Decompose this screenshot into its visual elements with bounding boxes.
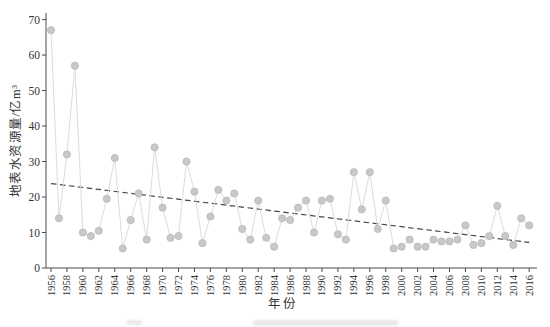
data-point: [207, 213, 214, 220]
x-tick-label: 1958: [61, 275, 72, 296]
y-tick-label: 40: [29, 120, 41, 132]
data-point: [462, 222, 469, 229]
x-tick-label: 2012: [492, 275, 503, 296]
data-point: [446, 238, 453, 245]
x-tick-label: 1964: [109, 274, 120, 296]
data-point: [518, 215, 525, 222]
x-tick-label: 1990: [316, 275, 327, 296]
x-tick-label: 1962: [93, 275, 104, 296]
data-point: [119, 245, 126, 252]
x-tick-label: 1968: [141, 275, 152, 296]
data-point: [135, 190, 142, 197]
y-tick-label: 10: [29, 227, 41, 239]
x-tick-label: 1998: [380, 275, 391, 296]
data-point: [239, 225, 246, 232]
x-tick-label: 1994: [348, 274, 359, 296]
data-point: [183, 158, 190, 165]
data-point: [71, 62, 78, 69]
caption-fragment-left: [126, 320, 142, 325]
x-tick-label: 1992: [332, 275, 343, 296]
data-point: [87, 232, 94, 239]
data-point: [55, 215, 62, 222]
x-tick-label: 1980: [237, 275, 248, 296]
data-point: [326, 195, 333, 202]
data-point: [390, 245, 397, 252]
data-point: [127, 216, 134, 223]
data-point: [358, 206, 365, 213]
x-tick-label: 2014: [508, 274, 519, 296]
x-axis-title: 年份: [268, 293, 298, 312]
chart-figure: 0102030405060701956195819601962196419661…: [0, 0, 550, 327]
data-point: [247, 236, 254, 243]
data-point: [318, 197, 325, 204]
data-point: [374, 225, 381, 232]
data-point: [95, 227, 102, 234]
data-point: [294, 204, 301, 211]
x-tick-label: 1988: [301, 275, 312, 296]
data-point: [103, 195, 110, 202]
data-point: [215, 186, 222, 193]
x-tick-label: 2002: [412, 275, 423, 296]
x-tick-label: 2008: [460, 275, 471, 296]
data-point: [486, 232, 493, 239]
x-tick-label: 2006: [444, 275, 455, 296]
data-point: [310, 229, 317, 236]
y-tick-label: 60: [29, 49, 41, 61]
data-point: [279, 215, 286, 222]
data-point: [438, 238, 445, 245]
x-tick-label: 2004: [428, 274, 439, 296]
x-tick-label: 1976: [205, 275, 216, 296]
data-point: [342, 236, 349, 243]
data-point: [526, 222, 533, 229]
data-point: [334, 231, 341, 238]
data-point: [263, 234, 270, 241]
data-point: [151, 144, 158, 151]
data-point: [470, 241, 477, 248]
x-tick-label: 1956: [46, 275, 57, 296]
x-tick-label: 2010: [476, 275, 487, 296]
data-point: [223, 197, 230, 204]
caption-fragment-right: [253, 320, 398, 326]
data-point: [494, 202, 501, 209]
data-point: [143, 236, 150, 243]
data-point: [231, 190, 238, 197]
data-point: [167, 234, 174, 241]
data-point: [255, 197, 262, 204]
y-tick-label: 30: [29, 156, 41, 168]
data-point: [302, 197, 309, 204]
y-tick-label: 70: [29, 14, 41, 26]
y-axis-title: 地表水资源量/亿m³: [5, 85, 24, 198]
data-point: [159, 204, 166, 211]
x-tick-label: 1960: [77, 275, 88, 296]
data-point: [406, 236, 413, 243]
chart-canvas: 0102030405060701956195819601962196419661…: [0, 0, 550, 327]
data-point: [191, 188, 198, 195]
data-point: [63, 151, 70, 158]
data-point: [510, 241, 517, 248]
series-line: [51, 30, 529, 248]
x-tick-label: 2016: [524, 275, 535, 296]
data-point: [47, 27, 54, 34]
data-point: [366, 169, 373, 176]
x-tick-label: 2000: [396, 275, 407, 296]
trend-line: [51, 184, 529, 243]
x-tick-label: 1970: [157, 275, 168, 296]
data-point: [398, 243, 405, 250]
data-point: [502, 232, 509, 239]
data-point: [422, 243, 429, 250]
data-point: [454, 236, 461, 243]
data-point: [478, 240, 485, 247]
data-point: [175, 232, 182, 239]
x-tick-label: 1972: [173, 275, 184, 296]
data-point: [79, 229, 86, 236]
y-tick-label: 50: [29, 85, 41, 97]
data-point: [199, 240, 206, 247]
x-tick-label: 1974: [189, 274, 200, 296]
data-point: [350, 169, 357, 176]
x-tick-label: 1996: [364, 275, 375, 296]
y-tick-label: 0: [34, 262, 40, 274]
x-tick-label: 1982: [253, 275, 264, 296]
data-point: [287, 216, 294, 223]
data-point: [111, 154, 118, 161]
data-point: [382, 197, 389, 204]
